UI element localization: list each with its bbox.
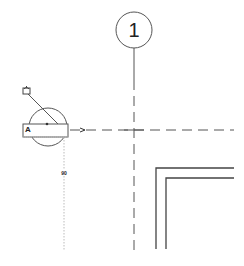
drawing-canvas[interactable]: 1 A 90 bbox=[0, 0, 244, 266]
grid-label: 1 bbox=[128, 19, 139, 41]
dimension-value[interactable]: 90 bbox=[61, 170, 67, 176]
arrow-icon bbox=[80, 128, 85, 132]
marker-center-point bbox=[46, 123, 49, 126]
elevation-marker[interactable]: A bbox=[23, 86, 68, 146]
elevation-marker-label: A bbox=[25, 125, 31, 134]
wall-inner-edge[interactable] bbox=[166, 178, 234, 249]
wall-outer-edge[interactable] bbox=[156, 168, 234, 249]
dimension-extension: 90 bbox=[61, 137, 68, 250]
wall[interactable] bbox=[156, 168, 234, 249]
grid-line-1[interactable]: 1 bbox=[116, 12, 152, 250]
rotate-handle-icon[interactable] bbox=[23, 86, 30, 94]
horizontal-reference-line[interactable] bbox=[70, 128, 234, 132]
